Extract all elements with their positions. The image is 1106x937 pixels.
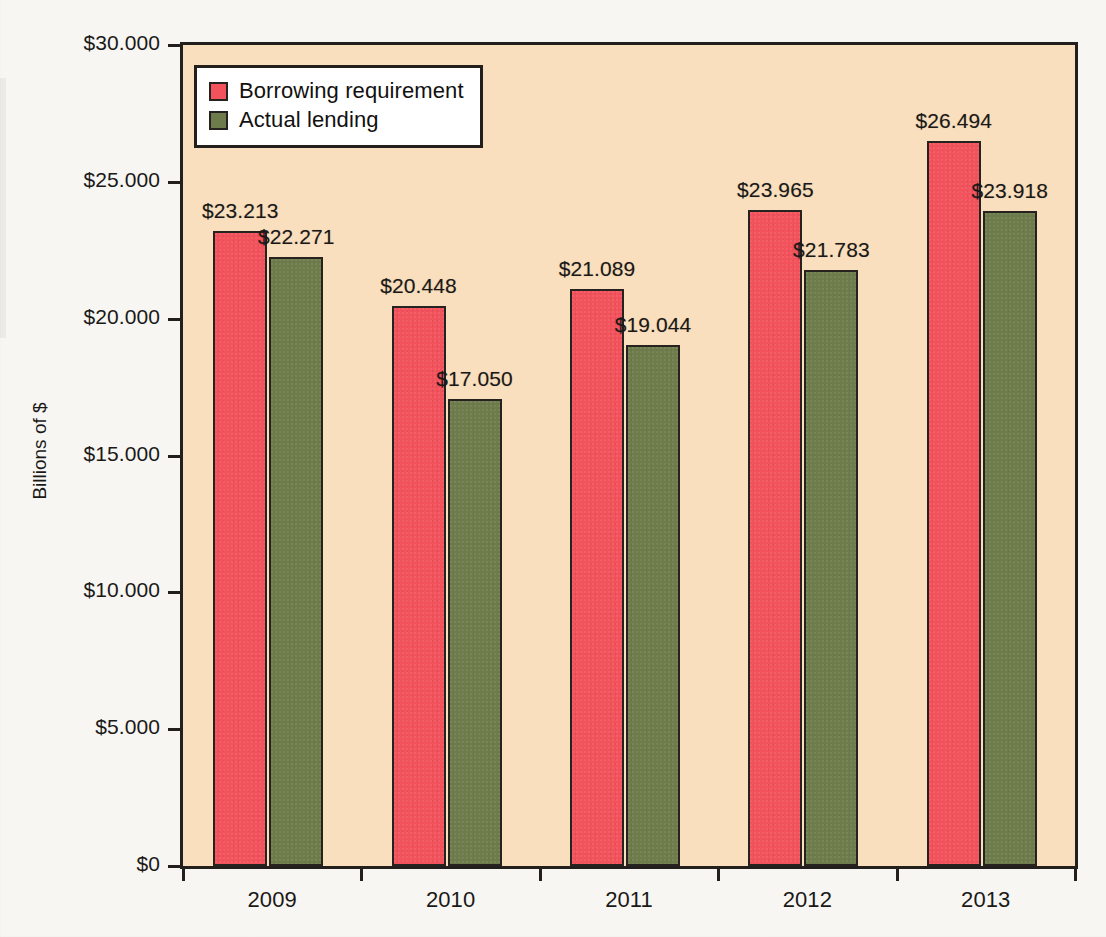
y-axis-tick-label: $5.000 bbox=[0, 715, 160, 739]
bar-2011-borrowing-requirement bbox=[570, 289, 624, 866]
y-axis-tick-label: $10.000 bbox=[0, 578, 160, 602]
page-edge-artifact bbox=[0, 78, 6, 338]
bar-texture bbox=[572, 291, 622, 864]
y-axis-tick-label: $30.000 bbox=[0, 31, 160, 55]
bar-texture bbox=[985, 213, 1035, 864]
legend-label-borrowing-requirement: Borrowing requirement bbox=[239, 78, 464, 104]
bar-texture bbox=[750, 212, 800, 864]
bar-2011-actual-lending bbox=[626, 345, 680, 866]
bar-2009-borrowing-requirement bbox=[213, 231, 267, 866]
x-axis-tick-mark bbox=[1074, 867, 1077, 881]
bar-value-label: $17.050 bbox=[436, 367, 513, 391]
bar-texture bbox=[215, 233, 265, 864]
bar-texture bbox=[450, 401, 500, 864]
y-axis-tick-label: $20.000 bbox=[0, 305, 160, 329]
bar-value-label: $21.783 bbox=[793, 238, 870, 262]
legend-item-borrowing-requirement: Borrowing requirement bbox=[209, 78, 464, 104]
x-axis-tick-label-2011: 2011 bbox=[540, 887, 718, 913]
bar-value-label: $19.044 bbox=[615, 313, 692, 337]
bar-value-label: $23.213 bbox=[202, 199, 279, 223]
bar-2013-borrowing-requirement bbox=[927, 141, 981, 866]
bar-2012-actual-lending bbox=[804, 270, 858, 866]
x-axis-tick-mark bbox=[182, 867, 185, 881]
x-axis-tick-label-2009: 2009 bbox=[183, 887, 361, 913]
legend-label-actual-lending: Actual lending bbox=[239, 107, 379, 133]
bar-texture bbox=[271, 259, 321, 864]
y-axis-tick-label: $25.000 bbox=[0, 168, 160, 192]
bar-value-label: $26.494 bbox=[915, 109, 992, 133]
bar-2010-actual-lending bbox=[448, 399, 502, 866]
x-axis-tick-mark bbox=[896, 867, 899, 881]
bar-texture bbox=[628, 347, 678, 864]
bar-texture bbox=[394, 308, 444, 864]
x-axis-tick-mark bbox=[717, 867, 720, 881]
bars-layer: $23.213$22.271$20.448$17.050$21.089$19.0… bbox=[183, 45, 1075, 866]
x-axis-tick-label-2010: 2010 bbox=[361, 887, 539, 913]
legend-swatch-icon-borrowing-requirement bbox=[209, 82, 228, 101]
x-axis-tick-mark bbox=[360, 867, 363, 881]
bar-value-label: $20.448 bbox=[380, 274, 457, 298]
bar-2009-actual-lending bbox=[269, 257, 323, 866]
chart-page: Billions of $ $0$5.000$10.000$15.000$20.… bbox=[0, 0, 1106, 937]
bar-2012-borrowing-requirement bbox=[748, 210, 802, 866]
plot-area: $23.213$22.271$20.448$17.050$21.089$19.0… bbox=[180, 42, 1078, 869]
bar-2013-actual-lending bbox=[983, 211, 1037, 866]
y-axis-tick-label: $0 bbox=[0, 852, 160, 876]
legend-item-actual-lending: Actual lending bbox=[209, 107, 464, 133]
x-axis-tick-mark bbox=[539, 867, 542, 881]
bar-value-label: $21.089 bbox=[559, 257, 636, 281]
bar-texture bbox=[929, 143, 979, 864]
x-axis-tick-label-2012: 2012 bbox=[718, 887, 896, 913]
chart-legend: Borrowing requirement Actual lending bbox=[194, 65, 483, 148]
legend-swatch-icon-actual-lending bbox=[209, 111, 228, 130]
bar-value-label: $22.271 bbox=[258, 225, 335, 249]
bar-value-label: $23.918 bbox=[971, 179, 1048, 203]
y-axis-tick-label: $15.000 bbox=[0, 442, 160, 466]
bar-texture bbox=[806, 272, 856, 864]
x-axis-tick-label-2013: 2013 bbox=[897, 887, 1075, 913]
bar-value-label: $23.965 bbox=[737, 178, 814, 202]
